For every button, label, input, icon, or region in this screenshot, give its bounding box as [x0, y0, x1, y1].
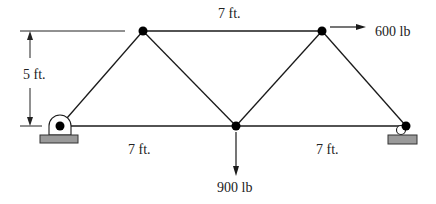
- height-arrow-down-icon: [27, 117, 33, 126]
- joint-d-icon: [318, 27, 327, 36]
- truss-drawing: [0, 0, 436, 204]
- height-arrow-up-icon: [27, 31, 33, 40]
- bottom-left-span-label: 7 ft.: [128, 143, 151, 157]
- member-left-diagonal: [60, 31, 143, 126]
- load-900-label: 900 lb: [217, 181, 252, 195]
- joint-c-icon: [232, 122, 241, 131]
- joint-b-icon: [139, 27, 148, 36]
- member-right-diagonal: [322, 31, 406, 126]
- member-center-right-diagonal: [236, 31, 322, 126]
- member-center-left-diagonal: [143, 31, 236, 126]
- top-span-label: 7 ft.: [218, 7, 241, 21]
- joint-a-icon: [56, 122, 65, 131]
- truss-diagram: 7 ft. 5 ft. 7 ft. 7 ft. 600 lb 900 lb: [0, 0, 436, 204]
- load-arrow-down-icon: [233, 166, 239, 176]
- joint-e-icon: [402, 122, 411, 131]
- load-arrow-right-icon: [356, 24, 366, 30]
- height-label: 5 ft.: [23, 68, 46, 82]
- bottom-right-span-label: 7 ft.: [316, 143, 339, 157]
- load-600-label: 600 lb: [375, 25, 410, 39]
